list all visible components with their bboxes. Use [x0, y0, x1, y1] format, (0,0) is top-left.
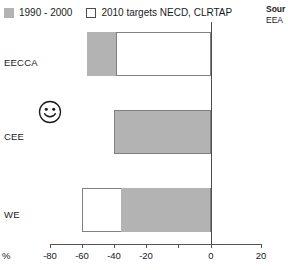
bar-cee-target: [114, 110, 211, 154]
x-axis-tick-label: -20: [139, 250, 153, 261]
x-axis: % -80 -60 -40 -20 0 20: [0, 244, 288, 270]
plot-area: [0, 22, 288, 244]
smiley-face-icon: [38, 100, 62, 124]
x-axis-tick-label: -40: [107, 250, 121, 261]
x-axis-tick: [50, 244, 51, 248]
category-label-eecca: EECCA: [4, 57, 38, 68]
category-label-we: WE: [4, 209, 20, 220]
legend-item-historic: 1990 - 2000: [4, 8, 72, 18]
legend-swatch-filled-icon: [4, 8, 14, 18]
legend-swatch-open-icon: [86, 8, 96, 18]
x-axis-tick: [82, 244, 83, 248]
x-axis-tick-label: 0: [208, 250, 213, 261]
bar-row-eecca: [0, 32, 288, 76]
x-axis-tick-label: -60: [75, 250, 89, 261]
x-axis-tick: [114, 244, 115, 248]
x-axis-tick: [178, 244, 179, 248]
bar-eecca-target: [116, 32, 211, 76]
source-title: Sour: [266, 4, 288, 15]
bar-row-we: [0, 188, 288, 232]
x-axis-tick: [261, 244, 262, 248]
x-axis-tick-label: -80: [43, 250, 57, 261]
axis-unit-label: %: [2, 250, 10, 261]
chart-legend: 1990 - 2000 2010 targets NECD, CLRTAP: [4, 5, 246, 21]
bar-we-historic: [121, 188, 210, 232]
zero-axis-line: [211, 22, 212, 248]
category-label-cee: CEE: [4, 131, 24, 142]
x-axis-tick: [146, 244, 147, 248]
legend-label-targets: 2010 targets NECD, CLRTAP: [101, 8, 232, 18]
emissions-bar-chart: 1990 - 2000 2010 targets NECD, CLRTAP So…: [0, 0, 288, 270]
x-axis-tick: [211, 244, 212, 248]
legend-label-historic: 1990 - 2000: [19, 8, 72, 18]
x-axis-tick-label: 20: [256, 250, 267, 261]
legend-item-targets: 2010 targets NECD, CLRTAP: [86, 8, 232, 18]
